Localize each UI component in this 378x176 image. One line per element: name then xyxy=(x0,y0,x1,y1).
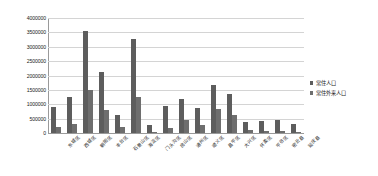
bar xyxy=(259,121,264,133)
y-axis-tick-label: 1000000 xyxy=(2,101,46,107)
bar xyxy=(291,124,296,133)
bar-group xyxy=(240,18,256,133)
bar xyxy=(163,106,168,133)
bar xyxy=(131,39,136,133)
x-axis-tick-label: 顺义区 xyxy=(210,134,225,149)
legend-label: 常住人口 xyxy=(316,78,336,88)
y-axis-tick-label: 2500000 xyxy=(2,58,46,64)
bar xyxy=(67,97,72,133)
bar-group xyxy=(80,18,96,133)
y-axis-tick-label: 0 xyxy=(2,130,46,136)
bar-group xyxy=(160,18,176,133)
x-axis-tick-labels: 东城区西城区朝阳区丰台区石景山区海淀区门头沟区房山区通州区顺义区昌平区大兴区怀柔… xyxy=(48,134,304,176)
x-axis-tick-label: 大兴区 xyxy=(242,134,257,149)
bar xyxy=(243,122,248,133)
x-axis-tick-label: 密云县 xyxy=(290,134,305,149)
chart-container: 0500000100000015000002000000250000030000… xyxy=(0,0,378,176)
y-axis-tick-label: 1500000 xyxy=(2,87,46,93)
bar-group xyxy=(288,18,304,133)
bar xyxy=(179,99,184,133)
bar-group xyxy=(112,18,128,133)
y-axis-tick-label: 500000 xyxy=(2,116,46,122)
bar-group xyxy=(272,18,288,133)
bar xyxy=(195,108,200,133)
bar xyxy=(184,120,189,133)
bar-group xyxy=(192,18,208,133)
bar-groups xyxy=(48,18,304,133)
y-axis-tick-label: 4000000 xyxy=(2,15,46,21)
bar-group xyxy=(224,18,240,133)
bar xyxy=(216,109,221,133)
y-axis-tick-label: 3500000 xyxy=(2,29,46,35)
x-axis-tick-label: 朝阳区 xyxy=(98,134,113,149)
y-axis-tick-label: 3000000 xyxy=(2,44,46,50)
chart-legend: 常住人口 常住外来人口 xyxy=(310,78,346,98)
bar-group xyxy=(48,18,64,133)
x-axis-tick-label: 西城区 xyxy=(82,134,97,149)
x-axis-tick-label: 通州区 xyxy=(194,134,209,149)
plot-area xyxy=(48,18,304,133)
bar xyxy=(72,124,77,133)
x-axis-tick-label: 丰台区 xyxy=(114,134,129,149)
legend-item-series-0: 常住人口 xyxy=(310,78,346,88)
bar-group xyxy=(96,18,112,133)
legend-swatch-icon xyxy=(310,91,313,94)
bar xyxy=(211,85,216,133)
bar xyxy=(104,110,109,133)
x-axis-tick-label: 昌平区 xyxy=(226,134,241,149)
bar xyxy=(275,120,280,133)
bar xyxy=(56,127,61,133)
legend-label: 常住外来人口 xyxy=(316,88,346,98)
bar-group xyxy=(128,18,144,133)
bar xyxy=(136,97,141,133)
bar xyxy=(88,90,93,133)
bar xyxy=(232,115,237,133)
bar xyxy=(99,72,104,133)
bar-group xyxy=(144,18,160,133)
x-axis-tick-label: 延庆县 xyxy=(306,134,321,149)
bar xyxy=(115,115,120,133)
bar xyxy=(227,94,232,133)
x-axis-tick-label: 东城区 xyxy=(66,134,81,149)
legend-swatch-icon xyxy=(310,81,313,84)
bar xyxy=(168,128,173,133)
y-axis-tick-label: 2000000 xyxy=(2,73,46,79)
bar-group xyxy=(256,18,272,133)
bar xyxy=(200,125,205,133)
legend-item-series-1: 常住外来人口 xyxy=(310,88,346,98)
bar xyxy=(147,125,152,133)
bar-group xyxy=(64,18,80,133)
bar-group xyxy=(208,18,224,133)
bar xyxy=(83,31,88,133)
x-axis-tick-label: 平谷区 xyxy=(274,134,289,149)
x-axis-tick-label: 怀柔区 xyxy=(258,134,273,149)
bar xyxy=(51,107,56,133)
bar-group xyxy=(176,18,192,133)
bar xyxy=(120,127,125,133)
